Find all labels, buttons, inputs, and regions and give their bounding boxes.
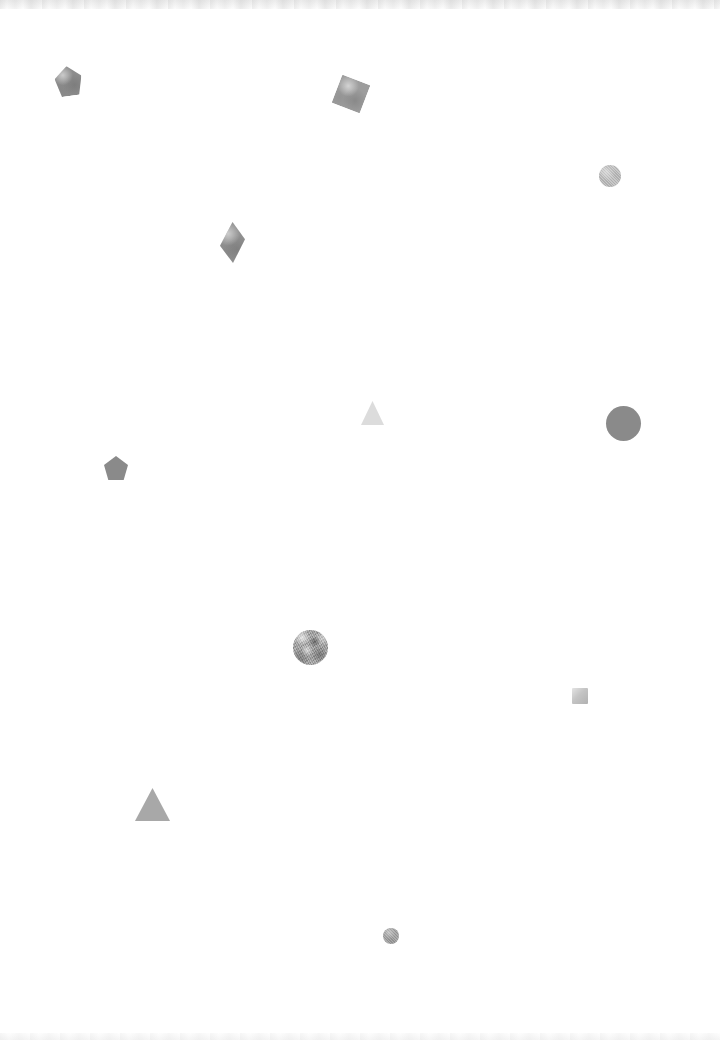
circle-textured-upper-right	[599, 165, 621, 187]
square-top-center	[332, 75, 371, 114]
triangle-lower-left	[135, 788, 170, 821]
square-small-right	[572, 688, 588, 704]
pentagon-mid-left	[104, 456, 128, 480]
circle-large-right	[606, 406, 641, 441]
circle-small-bottom	[383, 928, 399, 944]
bottom-scan-band	[0, 1033, 720, 1040]
circle-photo-center	[293, 630, 328, 665]
shape-canvas	[0, 0, 720, 1040]
diamond-upper-left	[220, 222, 245, 263]
pentagon-top-left	[53, 64, 84, 97]
top-scan-band	[0, 0, 720, 9]
triangle-pale-center	[361, 401, 384, 425]
